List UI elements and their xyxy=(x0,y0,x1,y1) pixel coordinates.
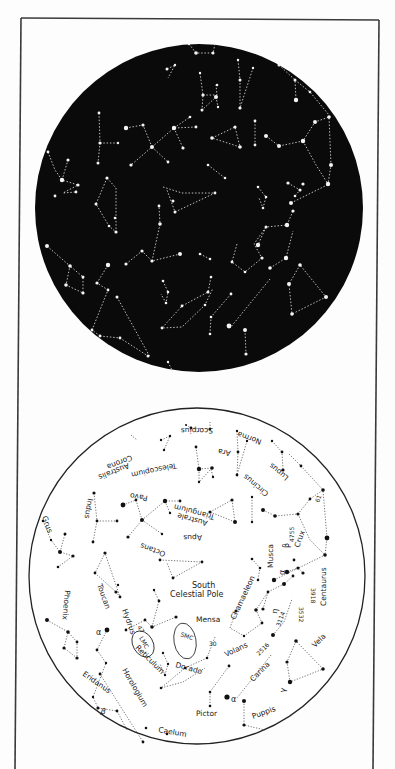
label-south-pole-2: Celestial Pole xyxy=(170,590,224,599)
label-beta-crux: β xyxy=(282,543,291,548)
label-south-pole-1: South xyxy=(192,581,215,590)
dark-star-chart xyxy=(0,0,395,400)
label-apus: Apus xyxy=(183,533,202,542)
label-3532: 3532 xyxy=(298,607,305,622)
label-pictor: Pictor xyxy=(196,709,218,718)
chart-disc xyxy=(29,408,365,744)
label-centaurus: Centaurus xyxy=(319,567,328,606)
label-30: 30 xyxy=(209,640,217,647)
label-musca: Musca xyxy=(266,544,275,568)
label-scorpius: Scorpius xyxy=(181,426,213,435)
label-4755: 4755 xyxy=(288,527,295,542)
label-mensa: Mensa xyxy=(196,615,220,624)
label-alpha-crux: α xyxy=(278,570,287,575)
label-alpha-carina: α xyxy=(231,695,236,704)
star-chart-page: Scorpius Corona Australis Telescopium Ar… xyxy=(0,0,395,769)
labeled-star-chart: Scorpius Corona Australis Telescopium Ar… xyxy=(0,380,395,769)
label-3918: 3918 xyxy=(310,588,317,603)
sky-disc xyxy=(35,44,363,372)
label-alpha-eridanus: α xyxy=(96,628,101,637)
